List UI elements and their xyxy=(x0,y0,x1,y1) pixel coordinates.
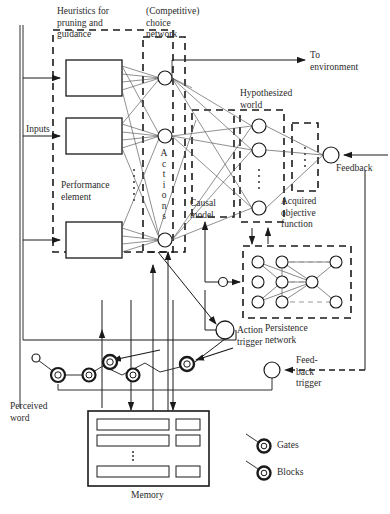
label-to-environment: To environment xyxy=(310,50,358,73)
memory-block xyxy=(88,411,209,486)
label-performance-element: Performance element xyxy=(61,180,110,203)
label-actions-vertical: Actions xyxy=(158,148,170,222)
fan-connections xyxy=(122,66,160,252)
legend-label-gates: Gates xyxy=(277,440,299,452)
diagram-svg xyxy=(0,0,390,514)
label-feedback: Feedback xyxy=(336,163,372,175)
world-persistence-arrows xyxy=(252,228,268,244)
input-arrows xyxy=(23,78,60,240)
persistence-edges xyxy=(258,262,336,302)
label-inputs: Inputs xyxy=(26,124,50,136)
action-trigger-node xyxy=(216,321,234,339)
world-node-3 xyxy=(252,201,266,215)
label-causal-model: Causal model xyxy=(190,198,216,221)
label-persistence-network: Persistence network xyxy=(265,323,308,346)
actions-letter: A xyxy=(158,148,170,159)
dashed-region-acquired-objective-function xyxy=(292,123,318,191)
actions-letter: i xyxy=(158,180,170,191)
performance-ellipsis xyxy=(133,169,135,201)
hypothesized-world-nodes xyxy=(252,119,266,215)
performance-boxes xyxy=(66,60,122,258)
label-action-trigger: Action trigger xyxy=(237,325,263,348)
label-perceived-word: Perceived word xyxy=(10,401,47,424)
gate-chain-links xyxy=(38,360,272,390)
gate-symbols xyxy=(32,354,194,382)
label-competitive-choice-network: (Competitive) choice network xyxy=(146,6,199,41)
actions-letter: t xyxy=(158,169,170,180)
world-node-1 xyxy=(252,119,266,133)
outer-frames xyxy=(20,25,23,408)
hypothesized-world-ellipsis xyxy=(258,169,260,189)
label-hypothesized-world: Hypothesized world xyxy=(240,88,292,111)
action-node-3 xyxy=(158,233,172,247)
label-acquired-objective-function: Acquired objective function xyxy=(281,196,316,231)
to-environment-arrow xyxy=(172,60,305,78)
world-node-2 xyxy=(252,143,266,157)
label-feedback-trigger: Feed- back trigger xyxy=(296,355,321,390)
persistence-gate xyxy=(219,278,228,287)
legend-symbols xyxy=(246,434,271,480)
actions-letter: n xyxy=(158,201,170,212)
diagram-canvas: Heuristics for pruning and guidance (Com… xyxy=(0,0,390,514)
performance-box-2 xyxy=(66,118,122,154)
performance-box-3 xyxy=(66,222,122,258)
label-heuristics: Heuristics for pruning and guidance xyxy=(57,6,109,41)
feedback-node xyxy=(323,147,339,163)
memory-up-arrows xyxy=(102,252,168,408)
legend-label-blocks: Blocks xyxy=(277,467,303,479)
actions-letter: s xyxy=(158,211,170,222)
acquired-objective-ellipsis xyxy=(304,147,306,167)
feedback-loop-rail xyxy=(23,330,236,340)
feedback-trigger-node xyxy=(264,362,280,378)
actions-letter: o xyxy=(158,190,170,201)
action-node-2 xyxy=(158,129,172,143)
performance-box-1 xyxy=(66,60,122,96)
label-memory: Memory xyxy=(131,490,164,502)
actions-letter: c xyxy=(158,159,170,170)
action-node-1 xyxy=(158,71,172,85)
